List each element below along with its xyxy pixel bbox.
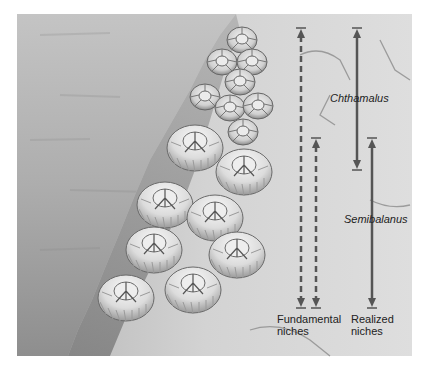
semibalanus-label: Semibalanus: [344, 213, 408, 225]
realized-niches-label: Realized niches: [351, 313, 394, 337]
fundamental-niches-label: Fundamental niches: [277, 313, 341, 337]
realized-label-line1: Realized: [351, 313, 394, 325]
chthamalus-label: Chthamalus: [330, 92, 389, 104]
realized-label-line2: niches: [351, 325, 394, 337]
fundamental-label-line1: Fundamental: [277, 313, 341, 325]
fundamental-label-line2: niches: [277, 325, 341, 337]
